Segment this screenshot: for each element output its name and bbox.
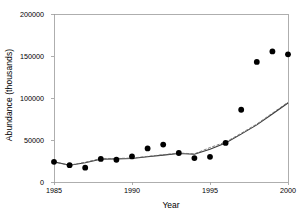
data-point [254, 59, 260, 65]
x-axis-title: Year [54, 200, 288, 210]
series-line [54, 103, 288, 165]
data-point [51, 159, 57, 165]
data-point [67, 162, 73, 168]
data-point [176, 150, 182, 156]
series-line [54, 102, 288, 165]
data-point [129, 153, 135, 159]
fit-lines [54, 102, 288, 165]
plot-area [0, 0, 305, 220]
data-points [51, 48, 291, 170]
axis-frame [54, 14, 288, 182]
data-point [82, 165, 88, 171]
data-point [160, 142, 166, 148]
data-point [223, 140, 229, 146]
data-point [270, 48, 276, 54]
data-point [114, 157, 120, 163]
axis-ticks [51, 14, 288, 185]
data-point [98, 156, 104, 162]
data-point [238, 107, 244, 113]
chart-figure: Abundance (thousands) 050000100000150000… [0, 0, 305, 220]
data-point [207, 154, 213, 160]
data-point [192, 155, 198, 161]
data-point [285, 51, 291, 57]
data-point [145, 146, 151, 152]
